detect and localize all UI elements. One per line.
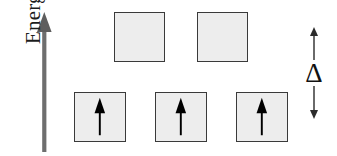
upper-orbital-box-2 [197,12,248,62]
crystal-field-diagram: Energy Δ [0,0,337,156]
upper-orbital-box-1 [114,12,165,62]
lower-orbital-box-2 [155,92,207,142]
delta-symbol: Δ [296,58,332,88]
spin-up-arrow-icon-1 [75,93,125,141]
lower-orbital-box-1 [74,92,126,142]
splitting-indicator: Δ [296,26,332,120]
lower-orbital-box-3 [236,92,288,142]
energy-axis-label: Energy [22,0,44,44]
spin-up-arrow-icon-3 [237,93,287,141]
spin-up-arrow-icon-2 [156,93,206,141]
